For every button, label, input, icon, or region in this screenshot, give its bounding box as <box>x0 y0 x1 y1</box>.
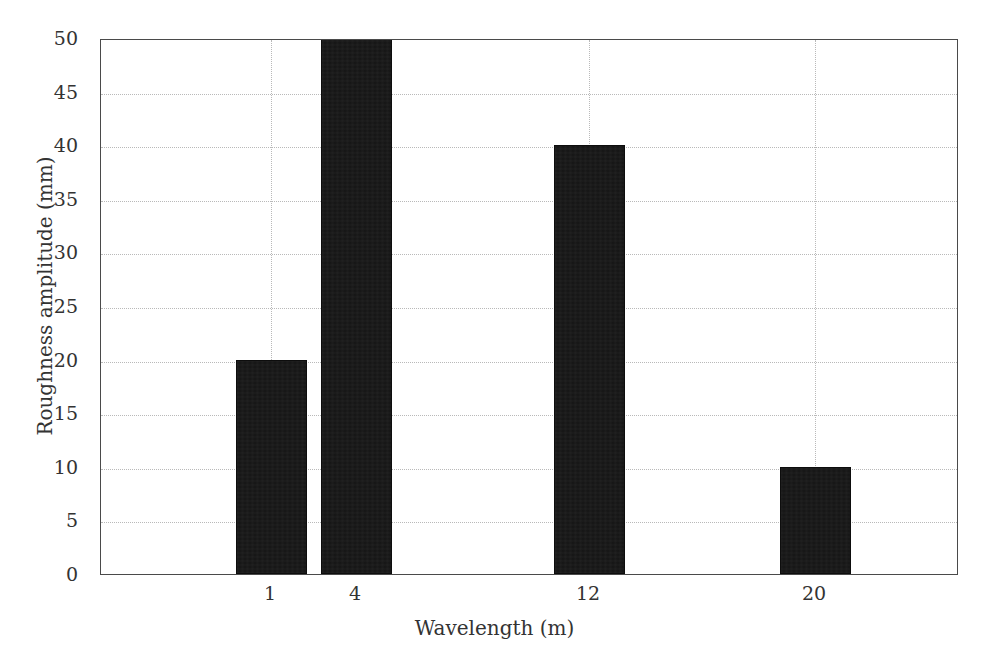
x-axis-tick-label: 1 <box>230 584 310 603</box>
bar <box>554 145 625 574</box>
gridline-horizontal <box>101 201 957 202</box>
y-axis-tick-label: 15 <box>18 404 78 423</box>
gridline-horizontal <box>101 308 957 309</box>
y-axis-tick-label: 50 <box>18 29 78 48</box>
y-axis-tick-label: 10 <box>18 458 78 477</box>
bar <box>321 39 392 574</box>
bar <box>236 360 307 574</box>
gridline-horizontal <box>101 254 957 255</box>
bar <box>780 467 851 574</box>
x-axis-tick-label: 20 <box>774 584 854 603</box>
gridline-horizontal <box>101 362 957 363</box>
bar-chart-figure: Roughness amplitude (mm) Wavelength (m) … <box>0 0 989 665</box>
y-axis-tick-label: 40 <box>18 136 78 155</box>
plot-area <box>100 39 958 575</box>
x-axis-tick-label: 4 <box>315 584 395 603</box>
y-axis-tick-label: 35 <box>18 190 78 209</box>
y-axis-tick-label: 45 <box>18 83 78 102</box>
x-axis-tick-label: 12 <box>548 584 628 603</box>
gridline-horizontal <box>101 94 957 95</box>
x-axis-title: Wavelength (m) <box>0 616 989 640</box>
y-axis-tick-label: 0 <box>18 565 78 584</box>
y-axis-tick-label: 30 <box>18 243 78 262</box>
y-axis-tick-label: 25 <box>18 297 78 316</box>
gridline-horizontal <box>101 415 957 416</box>
gridline-horizontal <box>101 147 957 148</box>
y-axis-tick-label: 20 <box>18 351 78 370</box>
y-axis-tick-label: 5 <box>18 511 78 530</box>
